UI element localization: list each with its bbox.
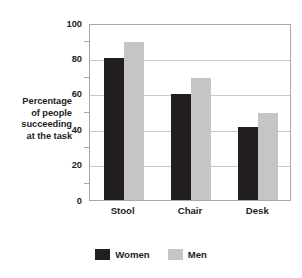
y-axis-tick-label: 60 (48, 90, 82, 99)
bar (258, 113, 278, 200)
legend-swatch (168, 249, 183, 260)
legend-item: Men (168, 249, 207, 260)
bar (238, 127, 258, 200)
y-axis-tick-label: 40 (48, 126, 82, 135)
y-axis-title: Percentageof peoplesucceedingat the task (2, 96, 72, 142)
bar (191, 78, 211, 200)
x-axis-tick-label: Desk (217, 206, 297, 216)
bar-chart: Percentageof peoplesucceedingat the task… (0, 0, 302, 278)
y-axis-tick-label: 20 (48, 161, 82, 170)
legend-label: Men (188, 250, 207, 260)
legend-item: Women (95, 249, 149, 260)
y-axis-tick-label: 80 (48, 55, 82, 64)
y-axis-title-line: of people (2, 108, 72, 120)
bar (104, 58, 124, 200)
legend-swatch (95, 249, 110, 260)
bar (171, 94, 191, 200)
bar (124, 42, 144, 200)
legend-label: Women (115, 250, 149, 260)
plot-area (89, 24, 291, 201)
y-axis-tick-label: 0 (48, 197, 82, 206)
y-axis-tick-label: 100 (48, 20, 82, 29)
chart-legend: WomenMen (0, 249, 302, 260)
